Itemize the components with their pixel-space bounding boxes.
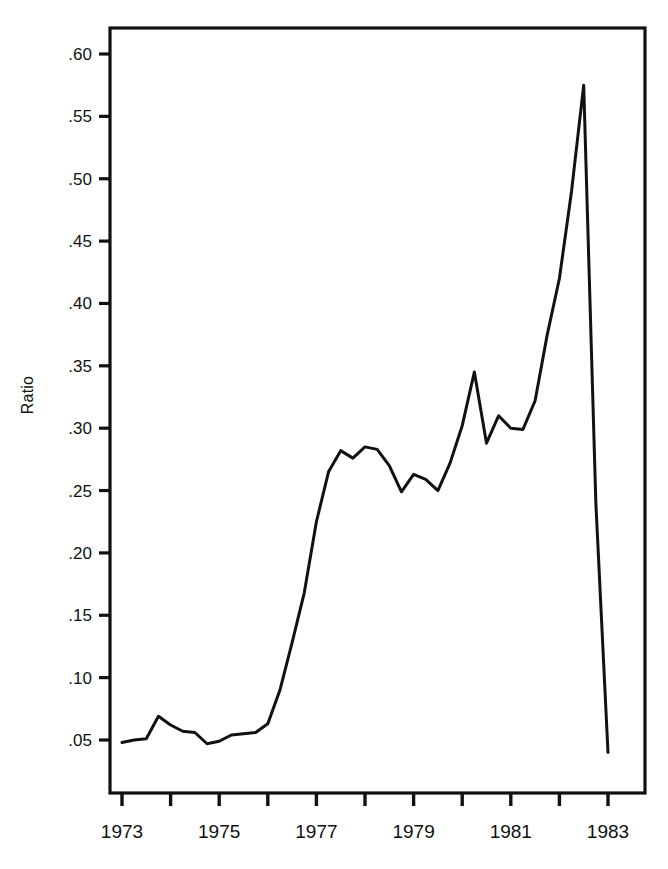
x-tick-label: 1973	[101, 821, 143, 842]
y-tick-label: .20	[68, 544, 92, 563]
chart-figure: Ratio .05.10.15.20.25.30.35.40.45.50.55.…	[0, 0, 668, 869]
y-tick-label: .25	[68, 482, 92, 501]
y-axis-label: Ratio	[19, 376, 37, 414]
plot-border	[110, 28, 645, 793]
y-axis-label-container: Ratio	[6, 355, 50, 435]
data-line	[122, 85, 608, 752]
y-axis-ticks: .05.10.15.20.25.30.35.40.45.50.55.60	[68, 45, 110, 750]
x-axis-ticks: 197319751977197919811983	[101, 793, 629, 842]
y-tick-label: .30	[68, 419, 92, 438]
x-tick-label: 1981	[490, 821, 532, 842]
x-tick-label: 1979	[392, 821, 434, 842]
y-tick-label: .45	[68, 232, 92, 251]
x-tick-label: 1975	[198, 821, 240, 842]
y-tick-label: .35	[68, 357, 92, 376]
plot-frame	[110, 28, 645, 793]
data-series-group	[122, 85, 608, 752]
y-tick-label: .55	[68, 107, 92, 126]
y-tick-label: .60	[68, 45, 92, 64]
y-tick-label: .10	[68, 669, 92, 688]
x-tick-label: 1977	[295, 821, 337, 842]
y-tick-label: .15	[68, 606, 92, 625]
y-tick-label: .40	[68, 294, 92, 313]
y-tick-label: .50	[68, 170, 92, 189]
y-tick-label: .05	[68, 731, 92, 750]
x-tick-label: 1983	[587, 821, 629, 842]
line-chart-svg: .05.10.15.20.25.30.35.40.45.50.55.60 197…	[0, 0, 668, 869]
